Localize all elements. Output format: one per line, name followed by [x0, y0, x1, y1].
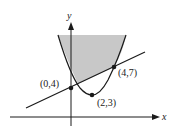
x-axis-label: x — [161, 111, 167, 122]
label-point-0-4: (0,4) — [40, 78, 59, 90]
y-axis-label: y — [66, 10, 72, 21]
point-0-4 — [69, 86, 74, 91]
y-axis-arrow-icon — [68, 22, 74, 30]
label-point-2-3: (2,3) — [97, 97, 116, 109]
label-point-4-7: (4,7) — [118, 67, 137, 79]
point-2-3 — [90, 93, 95, 98]
x-axis-arrow-icon — [152, 114, 160, 120]
region-diagram: (0,4) (2,3) (4,7) y x — [0, 0, 174, 134]
point-4-7 — [112, 65, 117, 70]
